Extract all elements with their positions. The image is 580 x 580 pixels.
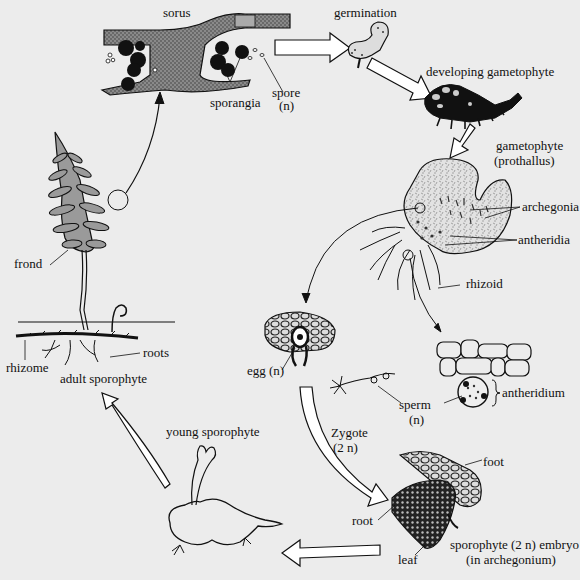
label-foot: foot [483, 455, 504, 469]
label-embryo-location: (in archegonium) [466, 553, 556, 567]
label-egg: egg (n) [247, 364, 284, 378]
label-sporangia: sporangia [210, 96, 261, 110]
arrow-developing-to-gametophyte [450, 124, 475, 158]
label-leaf: leaf [398, 553, 417, 567]
sorus-illustration [102, 14, 290, 95]
label-adult-sporophyte: adult sporophyte [60, 372, 147, 386]
label-spore-ploidy: (n) [279, 99, 294, 113]
adult-fern-illustration [16, 132, 175, 365]
arrow-archegonium-to-egg [306, 208, 418, 300]
label-sorus: sorus [163, 6, 190, 20]
label-roots: roots [143, 346, 169, 360]
young-sporophyte-illustration [169, 446, 282, 555]
label-gametophyte: gametophyte [496, 139, 563, 153]
sperm-illustration [330, 373, 401, 403]
label-rhizoid: rhizoid [466, 277, 503, 291]
label-root-embryo: root [352, 514, 373, 528]
arrow-sorus-to-germination [275, 33, 350, 62]
label-sperm: sperm [399, 398, 431, 412]
label-frond: frond [14, 257, 42, 271]
arrow-germination-to-developing [367, 58, 432, 100]
fern-life-cycle-diagram: sorus sporangia spore (n) germination de… [0, 0, 580, 580]
arrow-frond-to-sorus [126, 96, 160, 193]
label-developing-gametophyte: developing gametophyte [426, 65, 554, 79]
label-prothallus: (prothallus) [494, 154, 555, 168]
label-embryo: sporophyte (2 n) embryo [450, 538, 579, 552]
developing-gametophyte-illustration [425, 85, 522, 130]
label-young-sporophyte: young sporophyte [166, 425, 260, 439]
label-antheridia: antheridia [518, 233, 570, 247]
arrow-young-to-adult-sporophyte [102, 393, 170, 488]
label-zygote-ploidy: (2 n) [333, 441, 358, 455]
label-sperm-ploidy: (n) [409, 413, 424, 427]
germinating-spore [348, 22, 388, 68]
label-germination: germination [334, 6, 397, 20]
label-rhizome: rhizome [6, 361, 49, 375]
label-zygote: Zygote [331, 426, 368, 440]
egg-archegonium-illustration [265, 312, 335, 370]
arrow-embryo-to-young-sporophyte [282, 540, 380, 566]
label-archegonia: archegonia [522, 200, 579, 214]
label-antheridium: antheridium [502, 386, 565, 400]
